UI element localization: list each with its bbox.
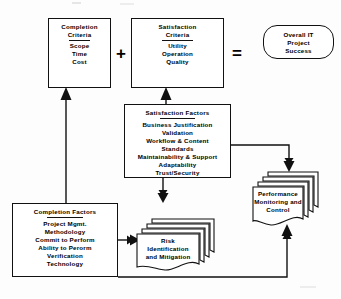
connector-satisfaction-factors-to-criteria xyxy=(161,87,172,104)
overall-success-line-2: Project xyxy=(287,39,309,46)
connector-satisfaction-factors-to-performance xyxy=(231,145,295,172)
satisfaction-criteria-items: Utility Operation Quality xyxy=(132,42,223,66)
node-overall-success[interactable]: Overall IT Project Success xyxy=(263,25,334,59)
list-item: Standards xyxy=(125,145,230,153)
connector-completion-factors-to-criteria xyxy=(61,87,72,203)
divider xyxy=(47,217,82,218)
overall-success-line-1: Overall IT xyxy=(283,31,313,38)
list-item: Adaptability xyxy=(125,161,230,169)
performance-stack-shape xyxy=(253,172,318,225)
node-satisfaction-factors[interactable]: Satisfaction Factors Business Justificat… xyxy=(124,104,231,178)
list-item: Technology xyxy=(13,260,117,268)
divider xyxy=(160,118,196,119)
list-item: Quality xyxy=(132,58,223,66)
completion-factors-title: Completion Factors xyxy=(13,204,117,216)
list-item: Project Mgmt. xyxy=(13,220,117,228)
satisfaction-criteria-title: Satisfaction Criteria xyxy=(132,19,223,38)
title-line-2: Criteria xyxy=(68,31,92,38)
list-item: Verification xyxy=(13,252,117,260)
list-item: Maintainability & Support xyxy=(125,153,230,161)
diagram-canvas: Completion Criteria Scope Time Cost + Sa… xyxy=(0,0,341,299)
list-item: Trust/Security xyxy=(125,169,230,177)
divider xyxy=(69,40,90,41)
node-satisfaction-criteria[interactable]: Satisfaction Criteria Utility Operation … xyxy=(131,18,224,88)
satisfaction-factors-items: Business Justification Validation Workfl… xyxy=(125,121,230,178)
connector-satisfaction-factors-to-risk xyxy=(158,178,169,203)
overall-success-line-3: Success xyxy=(285,47,312,54)
list-item: Commit to Perform xyxy=(13,236,117,244)
title-line-1: Satisfaction xyxy=(158,23,196,30)
list-item: Validation xyxy=(125,129,230,137)
completion-criteria-title: Completion Criteria xyxy=(49,19,110,38)
list-item: Utility xyxy=(132,42,223,50)
title-line-2: Criteria xyxy=(166,31,190,38)
node-completion-criteria[interactable]: Completion Criteria Scope Time Cost xyxy=(48,18,111,88)
operator-plus: + xyxy=(116,45,126,62)
list-item: Workflow & Content xyxy=(125,137,230,145)
completion-factors-items: Project Mgmt. Methodology Commit to Perf… xyxy=(13,220,117,269)
title-line-1: Completion xyxy=(61,23,98,30)
list-item: Time xyxy=(49,50,110,58)
operator-equals: = xyxy=(232,45,242,62)
satisfaction-factors-title: Satisfaction Factors xyxy=(125,105,230,117)
list-item: Business Justification xyxy=(125,121,230,129)
list-item: Methodology xyxy=(13,228,117,236)
divider xyxy=(162,40,193,41)
list-item: Ability to Perorm xyxy=(13,244,117,252)
list-item: Scope xyxy=(49,42,110,50)
completion-criteria-items: Scope Time Cost xyxy=(49,42,110,66)
list-item: Cost xyxy=(49,58,110,66)
node-completion-factors[interactable]: Completion Factors Project Mgmt. Methodo… xyxy=(12,203,118,277)
risk-stack-shape xyxy=(137,219,214,270)
list-item: Operation xyxy=(132,50,223,58)
